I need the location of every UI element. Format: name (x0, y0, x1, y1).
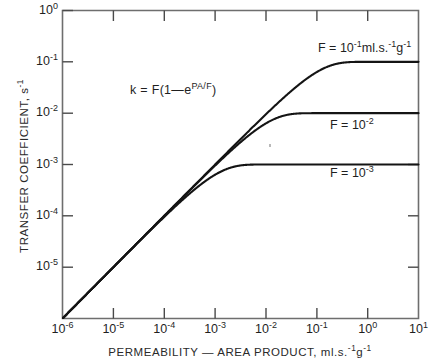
x-tick-label: 10-2 (243, 322, 289, 336)
x-axis-ticks (113, 308, 367, 319)
series-label-F-1e-2: F = 10-2 (330, 118, 374, 132)
x-axis-ticks-top (113, 11, 367, 22)
y-axis-ticks (63, 11, 74, 268)
x-tick-label: 10-3 (192, 322, 238, 336)
x-tick-label: 10-5 (90, 322, 136, 336)
x-tick-label: 10-4 (141, 322, 187, 336)
series-label-F-1e-3: F = 10-3 (330, 166, 374, 180)
scan-artifact-speck (269, 144, 271, 147)
x-axis-title: PERMEABILITY — AREA PRODUCT, ml.s.-1g-1 (62, 346, 418, 358)
x-tick-labels: 10-6 10-5 10-4 10-3 10-2 10-1 100 101 (0, 322, 436, 346)
chart-figure: 100 10-1 10-2 10-3 10-4 10-5 10-6 10-5 1… (0, 0, 436, 360)
x-tick-label: 101 (396, 322, 436, 336)
y-axis-title: TRANSFER COEFFICIENT, s-1 (18, 46, 30, 286)
model-equation-annotation: k = F(1—ePA/F) (130, 83, 216, 97)
curve-F-1e-2 (63, 113, 418, 318)
series-label-F-1e-1: F = 10-1ml.s.-1g-1 (318, 41, 411, 55)
y-tick-label: 100 (14, 3, 58, 17)
x-tick-label: 10-1 (294, 322, 340, 336)
x-tick-label: 100 (345, 322, 391, 336)
data-curves (63, 62, 418, 318)
curve-F-1e-1 (63, 62, 418, 318)
x-tick-label: 10-6 (40, 322, 86, 336)
curve-F-1e-3 (63, 165, 418, 319)
